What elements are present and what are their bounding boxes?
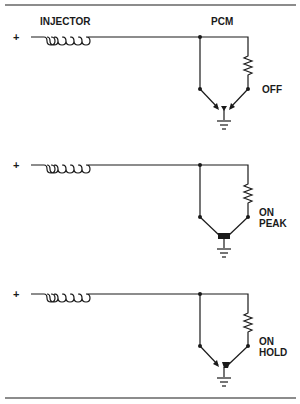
state-label-peak: PEAK bbox=[259, 218, 288, 229]
plus-terminal: + bbox=[13, 288, 19, 300]
state-label-on: ON bbox=[259, 207, 274, 218]
circuit-off: + OFF bbox=[13, 31, 282, 129]
ground-icon bbox=[217, 121, 231, 129]
transistor-on-hold-icon bbox=[200, 346, 248, 377]
state-label-on: ON bbox=[259, 336, 274, 347]
circuit-on-peak: + ON PEAK bbox=[13, 159, 288, 257]
injector-label: INJECTOR bbox=[40, 16, 91, 27]
ground-icon bbox=[217, 378, 231, 386]
injector-circuit-diagram: INJECTOR PCM + OFF + bbox=[0, 0, 300, 404]
state-label-off: OFF bbox=[262, 84, 282, 95]
transistor-on-peak-icon bbox=[200, 217, 248, 248]
pcm-label: PCM bbox=[211, 16, 233, 27]
ground-icon bbox=[217, 249, 231, 257]
state-label-hold: HOLD bbox=[259, 347, 287, 358]
transistor-off-icon bbox=[200, 89, 248, 120]
plus-terminal: + bbox=[13, 31, 19, 43]
plus-terminal: + bbox=[13, 159, 19, 171]
injector-coil-and-resistor bbox=[31, 294, 252, 346]
injector-coil-and-resistor bbox=[31, 165, 252, 217]
injector-coil-and-resistor bbox=[31, 37, 252, 89]
circuit-on-hold: + ON HOLD bbox=[13, 288, 287, 386]
